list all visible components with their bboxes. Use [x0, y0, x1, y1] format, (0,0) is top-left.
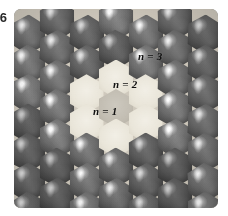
figure-root: 6 n = 1n = 2n = 3: [0, 0, 228, 216]
shell-label-n1: n = 1: [93, 106, 117, 117]
figure-number: 6: [0, 9, 7, 26]
shell-label-n3: n = 3: [138, 51, 162, 62]
shell-label-n2: n = 2: [113, 79, 137, 90]
photo-plate: n = 1n = 2n = 3: [14, 9, 218, 208]
